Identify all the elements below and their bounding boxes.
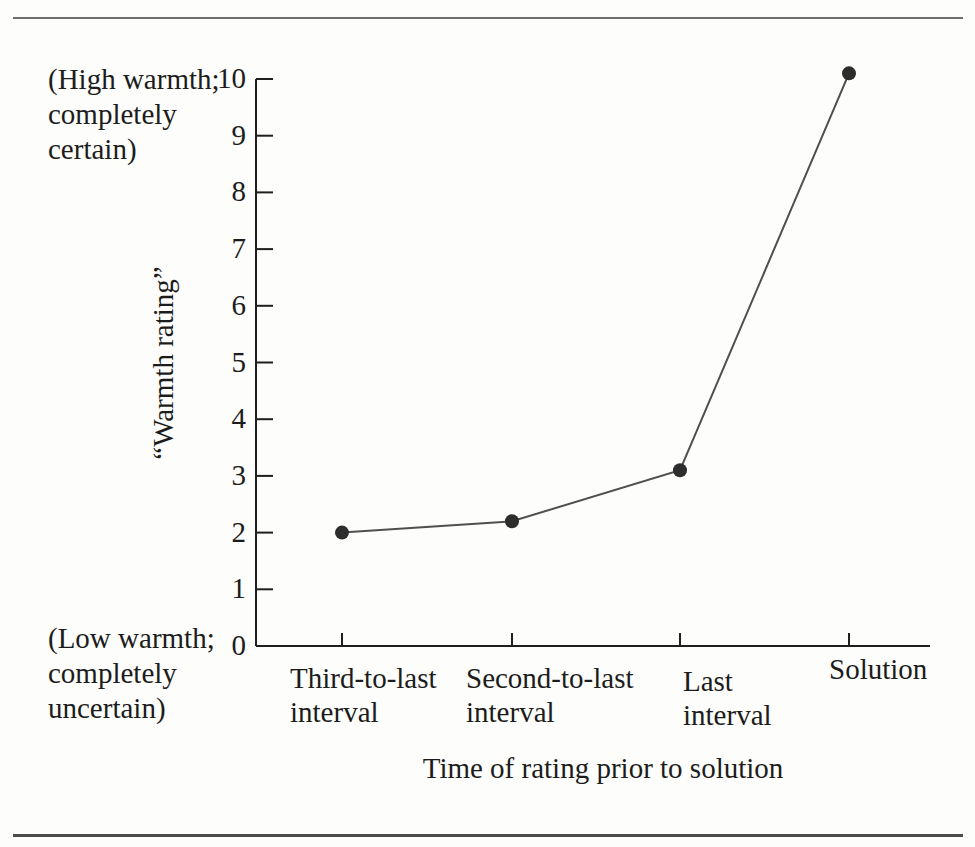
y-tick-label: 6: [232, 289, 247, 321]
y-tick-label: 9: [232, 119, 247, 151]
y-tick-label: 4: [232, 402, 247, 434]
y-tick-label: 2: [232, 516, 247, 548]
y-tick-label: 3: [232, 459, 247, 491]
bottom-rule: [13, 834, 963, 837]
data-point: [673, 463, 687, 477]
x-tick-label: Solution: [829, 653, 928, 685]
y-tick-label: 10: [217, 62, 246, 94]
warmth-line-chart: 012345678910Third-to-lastintervalSecond-…: [0, 0, 975, 847]
data-line: [342, 73, 849, 532]
y-tick-label: 8: [232, 175, 247, 207]
x-axis-title: Time of rating prior to solution: [268, 752, 938, 785]
x-tick-label: Second-to-lastinterval: [466, 662, 634, 728]
y-tick-label: 1: [232, 572, 247, 604]
y-tick-label: 5: [232, 346, 247, 378]
x-tick-label: Lastinterval: [683, 665, 772, 731]
data-point: [842, 66, 856, 80]
data-point: [335, 526, 349, 540]
y-tick-label: 7: [232, 232, 247, 264]
book-figure: (High warmth; completely certain) “Warmt…: [0, 0, 975, 847]
data-point: [505, 514, 519, 528]
x-tick-label: Third-to-lastinterval: [290, 662, 437, 728]
y-tick-label: 0: [232, 629, 247, 661]
